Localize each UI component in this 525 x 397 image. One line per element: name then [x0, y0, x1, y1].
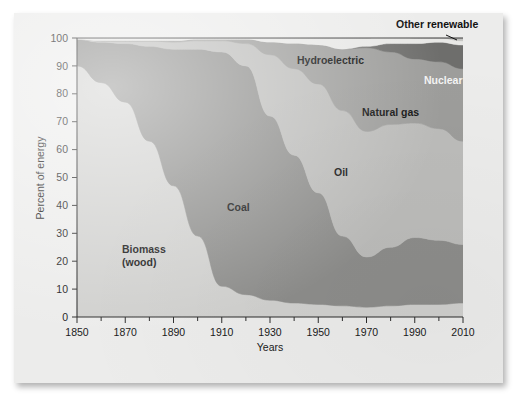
y-tick-label: 40: [56, 199, 68, 211]
y-axis-title: Percent of energy: [34, 136, 46, 220]
screenshot-page: 0102030405060708090100 18501870189019101…: [0, 0, 525, 397]
x-tick-label: 1890: [162, 326, 186, 338]
y-tick-label: 20: [56, 255, 68, 267]
x-tick-label: 1950: [307, 326, 331, 338]
series-label-nuclear: Nuclear: [424, 74, 463, 86]
stacked-area-chart: 0102030405060708090100 18501870189019101…: [14, 13, 503, 383]
series-label-hydroelectric: Hydroelectric: [297, 54, 364, 66]
y-tick-label: 10: [56, 283, 68, 295]
series-label-other-renewable: Other renewable: [396, 18, 478, 30]
y-tick-label: 30: [56, 227, 68, 239]
x-tick-label: 1850: [65, 326, 89, 338]
x-axis-ticks: 185018701890191019301950197019902010: [65, 317, 475, 338]
x-tick-label: 2010: [451, 326, 475, 338]
scanned-figure-panel: 0102030405060708090100 18501870189019101…: [14, 13, 503, 383]
chart-svg: 0102030405060708090100 18501870189019101…: [14, 13, 503, 383]
y-tick-label: 100: [50, 32, 68, 44]
series-label-oil: Oil: [334, 166, 348, 178]
x-axis-title: Years: [257, 341, 283, 353]
y-axis-ticks: 0102030405060708090100: [50, 32, 77, 323]
x-tick-label: 1990: [403, 326, 427, 338]
y-tick-label: 60: [56, 143, 68, 155]
area-bands: [77, 32, 463, 317]
x-tick-label: 1910: [210, 326, 234, 338]
series-label-biomass: Biomass: [122, 243, 166, 255]
y-tick-label: 70: [56, 115, 68, 127]
x-tick-label: 1870: [114, 326, 138, 338]
y-tick-label: 0: [62, 311, 68, 323]
series-label-coal: Coal: [227, 201, 250, 213]
series-label-natural-gas: Natural gas: [362, 106, 419, 118]
x-tick-label: 1970: [355, 326, 379, 338]
y-tick-label: 50: [56, 171, 68, 183]
y-tick-label: 90: [56, 60, 68, 72]
series-label-biomass-line2: (wood): [122, 256, 156, 268]
x-tick-label: 1930: [258, 326, 282, 338]
y-tick-label: 80: [56, 87, 68, 99]
